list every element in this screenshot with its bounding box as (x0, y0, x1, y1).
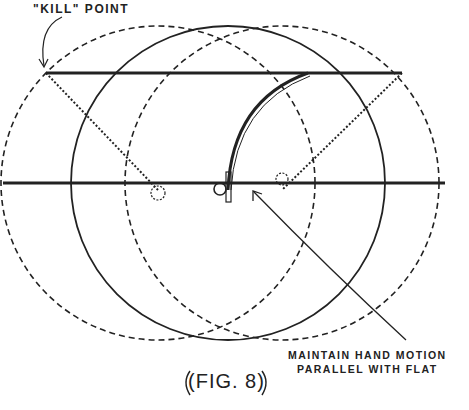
center-pivot-icon (214, 183, 226, 195)
note-line-1: MAINTAIN HAND MOTION (288, 348, 447, 362)
note-arrow (254, 192, 406, 340)
note-line-2: PARALLEL WITH FLAT (288, 362, 447, 376)
hand-motion-note: MAINTAIN HAND MOTION PARALLEL WITH FLAT (288, 348, 447, 376)
figure-caption: (FIG. 8) (188, 370, 265, 393)
left-pivot-icon (151, 186, 165, 200)
kill-point-arrow (43, 17, 62, 66)
kill-point-label: "KILL" POINT (33, 2, 129, 16)
stroke-arc (228, 73, 308, 190)
